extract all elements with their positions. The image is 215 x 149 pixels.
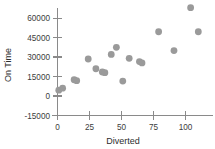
data-point [101, 69, 108, 76]
x-tick-label-25: 25 [85, 123, 95, 132]
x-axis-tick-labels: 0 25 50 75 100 [55, 123, 193, 132]
data-point [93, 65, 100, 72]
data-point [113, 44, 120, 51]
data-point [73, 77, 80, 84]
scatter-chart: On Time Diverted 60000 45000 30000 15000… [0, 0, 215, 149]
x-tick-label-50: 50 [117, 123, 127, 132]
data-point [126, 55, 133, 62]
y-tick-label-15000: 15000 [27, 73, 50, 82]
data-point [171, 47, 178, 54]
y-tick-label-60000: 60000 [27, 14, 50, 23]
x-axis-title: Diverted [106, 136, 140, 146]
x-tick-label-0: 0 [55, 123, 60, 132]
data-point [187, 4, 194, 11]
data-point [59, 85, 66, 92]
data-point [119, 78, 126, 85]
y-axis-title: On Time [3, 48, 13, 82]
plot-area: On Time Diverted 60000 45000 30000 15000… [0, 0, 215, 149]
data-point [108, 51, 115, 58]
y-tick-label-neg15000: -15000 [25, 112, 51, 121]
y-tick-label-0: 0 [45, 92, 50, 101]
data-point [195, 28, 202, 35]
data-point-group [55, 4, 201, 93]
data-point [85, 56, 92, 63]
y-tick-label-45000: 45000 [27, 34, 50, 43]
x-tick-label-100: 100 [179, 123, 193, 132]
y-axis-tick-labels: 60000 45000 30000 15000 0 -15000 [25, 14, 51, 121]
data-point [139, 59, 146, 66]
x-tick-label-75: 75 [149, 123, 159, 132]
data-point [155, 28, 162, 35]
y-tick-label-30000: 30000 [27, 53, 50, 62]
